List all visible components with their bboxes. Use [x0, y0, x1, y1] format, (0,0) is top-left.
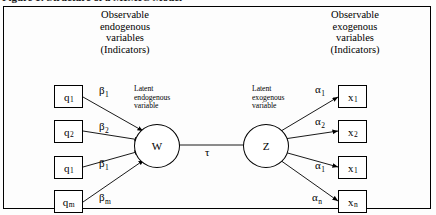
coefficient-alpha2: α2: [315, 115, 325, 127]
indicator-box-q1: q1: [54, 85, 83, 108]
header-right-line1: Observable: [292, 9, 418, 21]
coefficient-beta1-base: β: [99, 84, 105, 96]
indicator-qi-sub: 1: [70, 166, 74, 175]
indicator-x2-sub: 2: [354, 130, 358, 139]
indicator-box-xn: xn: [338, 190, 367, 213]
structural-coefficient-tau: τ: [205, 146, 209, 158]
coefficient-alpha2-base: α: [315, 115, 321, 127]
header-right-line2: exogenous: [292, 21, 418, 33]
indicator-qi-base: q: [64, 162, 70, 174]
indicator-xi-base: x: [348, 162, 354, 174]
latent-endogenous-label-line3: variable: [134, 102, 170, 111]
indicator-xn-sub: n: [354, 200, 358, 209]
latent-endogenous-symbol: W: [152, 140, 162, 152]
indicator-q2-base: q: [64, 126, 70, 138]
indicator-x1-base: x: [348, 91, 354, 103]
latent-exogenous-label-line3: variable: [252, 102, 284, 111]
coefficient-betam: βm: [99, 191, 110, 203]
indicator-x2-base: x: [348, 126, 354, 138]
indicator-q1-sub: 1: [70, 95, 74, 104]
figure-caption: Figure 1: Structure of a MIMIC Model: [2, 0, 182, 3]
header-right-line4: (Indicators): [292, 44, 418, 56]
indicator-box-qm: qm: [54, 190, 83, 213]
coefficient-alphai-sub: 1: [321, 165, 325, 174]
latent-exogenous-symbol: Z: [263, 140, 270, 152]
coefficient-alpha1: α1: [315, 83, 325, 95]
coefficient-alphan-base: α: [312, 191, 318, 203]
latent-exogenous-label: Latent exogenous variable: [252, 85, 284, 111]
header-left-line2: endogenous: [62, 21, 188, 33]
coefficient-alphai-base: α: [315, 159, 321, 171]
coefficient-alphai: α1: [315, 159, 325, 171]
latent-exogenous-node: Z: [243, 124, 289, 168]
coefficient-alphan-sub: n: [318, 197, 322, 206]
coefficient-betam-sub: m: [105, 197, 111, 206]
indicator-box-xi: x1: [338, 156, 367, 179]
coefficient-betam-base: β: [99, 191, 105, 203]
header-observable-endogenous: Observable endogenous variables (Indicat…: [62, 9, 188, 55]
indicator-x1-sub: 1: [354, 95, 358, 104]
indicator-xi-sub: 1: [354, 166, 358, 175]
indicator-box-q2: q2: [54, 120, 83, 143]
coefficient-beta2: β2: [99, 120, 108, 132]
coefficient-alpha2-sub: 2: [321, 121, 325, 130]
coefficient-beta2-base: β: [99, 120, 105, 132]
coefficient-betai-sub: 1: [105, 163, 109, 172]
coefficient-alpha1-sub: 1: [321, 89, 325, 98]
indicator-xn-base: x: [348, 196, 354, 208]
latent-endogenous-node: W: [134, 124, 180, 168]
header-observable-exogenous: Observable exogenous variables (Indicato…: [292, 9, 418, 55]
coefficient-betai-base: β: [99, 157, 105, 169]
indicator-box-x1: x1: [338, 85, 367, 108]
figure-page: Figure 1: Structure of a MIMIC Model Obs…: [0, 0, 436, 215]
coefficient-beta2-sub: 2: [105, 126, 109, 135]
indicator-box-qi: q1: [54, 156, 83, 179]
coefficient-beta1: β1: [99, 84, 108, 96]
indicator-qm-sub: m: [69, 200, 75, 209]
indicator-box-x2: x2: [338, 120, 367, 143]
coefficient-alpha1-base: α: [315, 83, 321, 95]
indicator-q2-sub: 2: [70, 130, 74, 139]
latent-endogenous-label: Latent endogenous variable: [134, 85, 170, 111]
indicator-qm-base: q: [63, 196, 69, 208]
header-left-line4: (Indicators): [62, 44, 188, 56]
coefficient-betai: β1: [99, 157, 108, 169]
coefficient-alphan: αn: [312, 191, 322, 203]
header-left-line3: variables: [62, 32, 188, 44]
header-right-line3: variables: [292, 32, 418, 44]
indicator-q1-base: q: [64, 91, 70, 103]
coefficient-beta1-sub: 1: [105, 90, 109, 99]
header-left-line1: Observable: [62, 9, 188, 21]
